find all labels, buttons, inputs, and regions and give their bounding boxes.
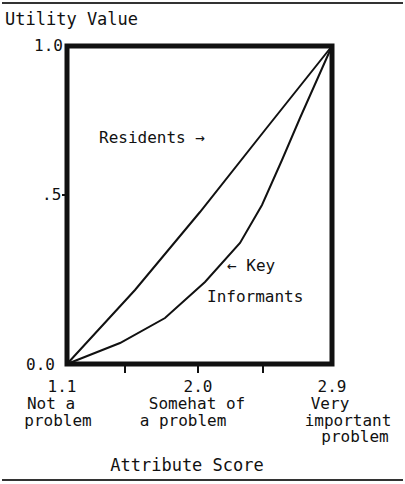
x-tick-label-left: 1.1 <box>48 378 77 395</box>
x-tick-label-mid: 2.0 <box>184 378 213 395</box>
residents-annotation: Residents → <box>99 129 205 146</box>
x-tick-desc-right-1: Very <box>311 395 350 412</box>
key-informants-line <box>67 46 332 364</box>
x-tick-desc-mid-1: Somehat of <box>149 395 245 412</box>
x-axis-title: Attribute Score <box>110 457 264 474</box>
x-tick-desc-left-2: problem <box>24 412 91 429</box>
residents-line <box>67 46 332 364</box>
key-informants-annotation-line1: ← Key <box>227 257 275 274</box>
plot-frame <box>67 46 332 364</box>
x-tick-desc-right-3: problem <box>321 428 388 445</box>
x-tick-label-right: 2.9 <box>318 378 347 395</box>
x-tick-desc-mid-2: a problem <box>140 412 227 429</box>
key-informants-annotation-line2: Informants <box>207 288 303 305</box>
x-tick-desc-left-1: Not a <box>27 395 75 412</box>
